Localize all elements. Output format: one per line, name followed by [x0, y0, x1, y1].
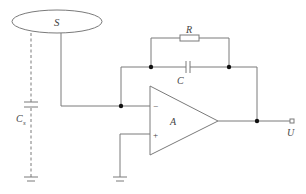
- ground-symbol-opamp: [113, 177, 127, 181]
- label-s: S: [54, 16, 60, 28]
- label-plus: +: [153, 130, 158, 140]
- schematic-canvas: S R C C s A − + U: [0, 0, 306, 194]
- signal-wire: [61, 33, 150, 106]
- label-a: A: [169, 116, 177, 127]
- label-r: R: [185, 24, 192, 35]
- stray-capacitor-cs: [24, 102, 38, 107]
- junction-node: [119, 104, 123, 108]
- label-c: C: [177, 75, 184, 86]
- circuit-diagram: S R C C s A − + U: [0, 0, 306, 194]
- noninverting-wire: [120, 134, 150, 177]
- label-cs: C: [16, 113, 23, 124]
- feedback-resistor-wire: [151, 38, 180, 67]
- label-minus: −: [153, 101, 158, 111]
- output-terminal: [290, 119, 294, 123]
- label-u: U: [287, 127, 295, 138]
- feedback-resistor-r: [180, 35, 199, 41]
- junction-node: [149, 65, 153, 69]
- ground-symbol-cs: [24, 177, 38, 181]
- junction-node: [227, 65, 231, 69]
- op-amp-a: [150, 86, 218, 155]
- junction-node: [255, 119, 259, 123]
- feedback-capacitor-c: [186, 61, 190, 73]
- feedback-resistor-wire-right: [199, 38, 229, 67]
- label-cs-sub: s: [23, 119, 26, 127]
